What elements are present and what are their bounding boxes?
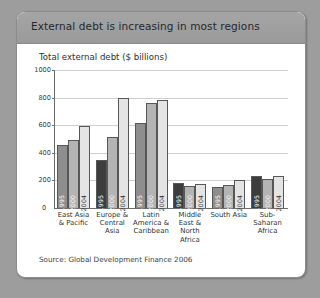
bar-year-label: 2004 bbox=[81, 195, 87, 212]
bar-2004: 2004 bbox=[79, 126, 90, 208]
bar-year-label: 2004 bbox=[198, 195, 204, 212]
bar-2000: 2000 bbox=[184, 186, 195, 208]
bar-year-label: 1995 bbox=[176, 195, 182, 212]
chart-card: External debt is increasing in most regi… bbox=[16, 11, 306, 278]
bar-groups: 1995200020041995200020041995200020041995… bbox=[54, 70, 287, 208]
bar-2004: 2004 bbox=[157, 100, 168, 208]
bar-year-label: 2004 bbox=[120, 195, 126, 212]
bar-group: 199520002004 bbox=[248, 70, 287, 208]
bar-group: 199520002004 bbox=[54, 70, 93, 208]
y-axis-tick-zero: 0 bbox=[42, 204, 46, 212]
y-axis-tick-label: 200 bbox=[38, 176, 51, 184]
bar-year-label: 2000 bbox=[187, 195, 193, 212]
bar-year-label: 2000 bbox=[264, 195, 270, 212]
bar-group: 199520002004 bbox=[170, 70, 209, 208]
bar-year-label: 1995 bbox=[98, 195, 104, 212]
bar-1995: 1995 bbox=[57, 145, 68, 208]
bar-year-label: 2004 bbox=[275, 195, 281, 212]
bar-2000: 2000 bbox=[223, 185, 234, 208]
bar-2004: 2004 bbox=[118, 98, 129, 208]
bar-2000: 2000 bbox=[68, 140, 79, 208]
bar-1995: 1995 bbox=[96, 160, 107, 208]
bar-year-label: 2004 bbox=[237, 195, 243, 212]
bar-2004: 2004 bbox=[273, 176, 284, 208]
bar-1995: 1995 bbox=[251, 176, 262, 208]
bar-year-label: 2000 bbox=[226, 195, 232, 212]
bar-year-label: 1995 bbox=[59, 195, 65, 212]
bar-2000: 2000 bbox=[262, 179, 273, 208]
bar-1995: 1995 bbox=[135, 123, 146, 208]
bar-2004: 2004 bbox=[234, 180, 245, 208]
x-axis-category-label: Sub-Saharan Africa bbox=[248, 211, 287, 244]
bar-2000: 2000 bbox=[146, 103, 157, 208]
y-axis-tick-label: 1000 bbox=[34, 66, 51, 74]
bar-year-label: 2000 bbox=[148, 195, 154, 212]
x-axis-category-label: Europe & Central Asia bbox=[93, 211, 132, 244]
bar-year-label: 2000 bbox=[109, 195, 115, 212]
bar-year-label: 1995 bbox=[253, 195, 259, 212]
bar-year-label: 2000 bbox=[70, 195, 76, 212]
bar-group: 199520002004 bbox=[209, 70, 248, 208]
bar-group: 199520002004 bbox=[132, 70, 171, 208]
x-axis-category-label: South Asia bbox=[209, 211, 248, 244]
chart-plot-area: 1000800600400200 19952000200419952000200… bbox=[17, 12, 305, 277]
bar-group: 199520002004 bbox=[93, 70, 132, 208]
x-axis-category-label: East Asia & Pacific bbox=[54, 211, 93, 244]
bar-year-label: 1995 bbox=[215, 195, 221, 212]
bar-1995: 1995 bbox=[212, 187, 223, 208]
y-axis-tick-label: 600 bbox=[38, 121, 51, 129]
bar-2004: 2004 bbox=[195, 184, 206, 208]
source-note: Source: Global Development Finance 2006 bbox=[39, 255, 192, 264]
y-axis-tick-label: 800 bbox=[38, 94, 51, 102]
y-axis-tick-label: 400 bbox=[38, 149, 51, 157]
bar-year-label: 2004 bbox=[159, 195, 165, 212]
x-axis-category-label: Middle East & North Africa bbox=[170, 211, 209, 244]
bar-1995: 1995 bbox=[173, 183, 184, 208]
bar-year-label: 1995 bbox=[137, 195, 143, 212]
bar-2000: 2000 bbox=[107, 137, 118, 208]
x-axis-labels: East Asia & PacificEurope & Central Asia… bbox=[54, 211, 287, 244]
x-axis-category-label: Latin America & Caribbean bbox=[132, 211, 171, 244]
